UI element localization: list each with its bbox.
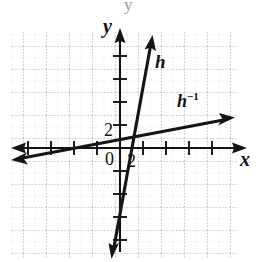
origin-label: 0 [105,150,114,168]
x-axis-label: x [240,149,250,169]
graph-figure: y [0,0,258,262]
grid-layer [10,32,237,258]
curve-h-inverse-label-base: h [177,91,187,111]
curve-h-label: h [155,52,166,71]
y-axis-label: y [103,16,112,36]
curve-h-inverse-label-exponent: −1 [187,90,199,102]
curve-h-inverse-label: h−1 [177,92,199,110]
x-axis-tick-label-2: 2 [127,152,136,170]
graph-canvas [0,0,258,262]
y-axis-tick-label-2: 2 [104,121,113,139]
